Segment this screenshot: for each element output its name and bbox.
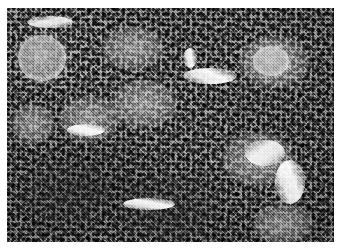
screenshot-root [0, 0, 340, 249]
film-grain-layer [7, 8, 334, 242]
micrograph-plate [7, 8, 334, 242]
